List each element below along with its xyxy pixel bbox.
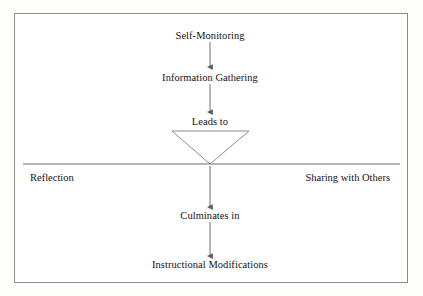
diagram-frame-border xyxy=(14,13,408,283)
node-instructional-modifications: Instructional Modifications xyxy=(152,259,268,271)
label-sharing-with-others: Sharing with Others xyxy=(305,172,390,184)
diagram-canvas: Self-Monitoring Information Gathering Le… xyxy=(0,0,423,296)
node-leads-to: Leads to xyxy=(192,116,228,128)
node-culminates-in: Culminates in xyxy=(180,210,239,222)
node-self-monitoring: Self-Monitoring xyxy=(176,30,245,42)
node-information-gathering: Information Gathering xyxy=(162,72,258,84)
label-reflection: Reflection xyxy=(30,172,74,184)
